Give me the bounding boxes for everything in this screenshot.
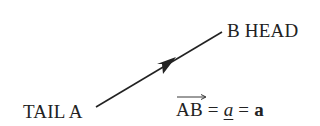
vector-ab: AB — [176, 100, 203, 119]
vector-equation: AB = a = a — [176, 100, 264, 119]
bold-symbol: a — [254, 99, 264, 120]
tail-label: TAIL A — [23, 102, 83, 121]
vector-name: AB — [176, 99, 203, 120]
head-label: B HEAD — [227, 21, 298, 40]
arrowhead-icon — [157, 57, 176, 74]
overarrow-icon — [177, 94, 207, 100]
equals-sign: = — [203, 99, 224, 120]
underlined-symbol: a — [224, 99, 234, 120]
equals-sign-2: = — [233, 99, 254, 120]
